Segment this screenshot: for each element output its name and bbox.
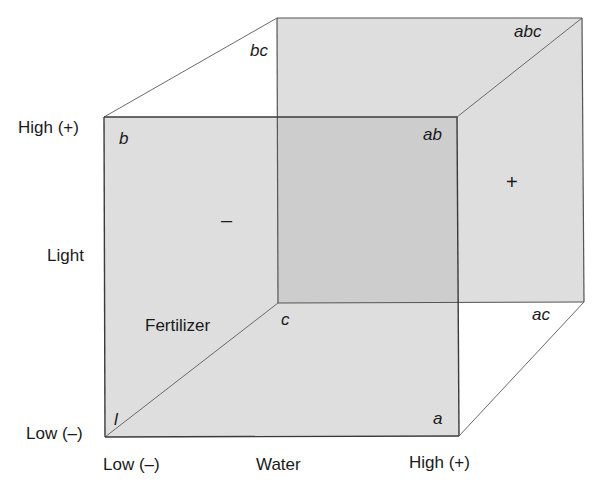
water-low-label: Low (–) (103, 456, 160, 473)
corner-ab-label: ab (423, 126, 442, 143)
overlap-region (277, 117, 458, 303)
water-axis-label: Water (256, 456, 301, 473)
edge-a-ac (459, 302, 584, 436)
corner-c-label: c (281, 311, 290, 328)
cube-graphic (0, 0, 603, 491)
corner-l-label: l (114, 411, 118, 428)
light-axis-label: Light (47, 247, 84, 264)
corner-b-label: b (119, 130, 128, 147)
corner-abc-label: abc (514, 23, 541, 40)
plus-sign: + (506, 172, 518, 192)
light-high-label: High (+) (18, 119, 79, 136)
corner-bc-label: bc (250, 42, 268, 59)
fertilizer-axis-label: Fertilizer (145, 317, 210, 334)
factorial-cube-diagram: High (+) Light Low (–) Low (–) Water Hig… (0, 0, 603, 491)
water-high-label: High (+) (409, 454, 470, 471)
corner-ac-label: ac (532, 306, 550, 323)
corner-a-label: a (433, 410, 442, 427)
front-bottom-edge (105, 436, 459, 437)
light-low-label: Low (–) (26, 425, 83, 442)
front-left-edge (104, 117, 105, 437)
minus-sign: – (221, 210, 232, 230)
edge-b-bc (104, 18, 277, 117)
